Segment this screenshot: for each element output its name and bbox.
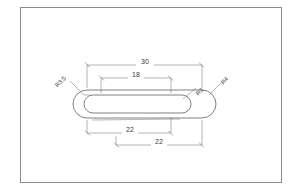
radius-r4-label: R4 xyxy=(220,75,230,85)
radius-callout-r3-5: R3.5 xyxy=(54,75,90,95)
radius-callout-r3: R3 xyxy=(183,86,205,99)
part-geometry xyxy=(73,90,216,120)
dim-18-label: 18 xyxy=(132,71,140,78)
leader-line-r4 xyxy=(209,83,221,95)
cad-drawing-canvas: 30 18 22 xyxy=(0,0,298,196)
dim-22-upper-label: 22 xyxy=(126,126,134,133)
lower-edge-detail-line xyxy=(92,119,180,120)
inner-stadium-profile xyxy=(84,95,191,113)
outer-stadium-profile xyxy=(73,90,216,118)
dimension-18: 18 xyxy=(99,70,173,93)
dim-22-lower-label: 22 xyxy=(155,138,163,145)
leader-line-r3-5 xyxy=(70,81,84,95)
radius-r3-5-label: R3.5 xyxy=(54,75,68,89)
dimension-30: 30 xyxy=(85,57,204,88)
radius-callout-r4: R4 xyxy=(209,75,230,95)
dim-30-label: 30 xyxy=(141,58,149,65)
screenshot-root: 30 18 22 xyxy=(0,0,298,196)
radius-r3-label: R3 xyxy=(195,86,205,96)
